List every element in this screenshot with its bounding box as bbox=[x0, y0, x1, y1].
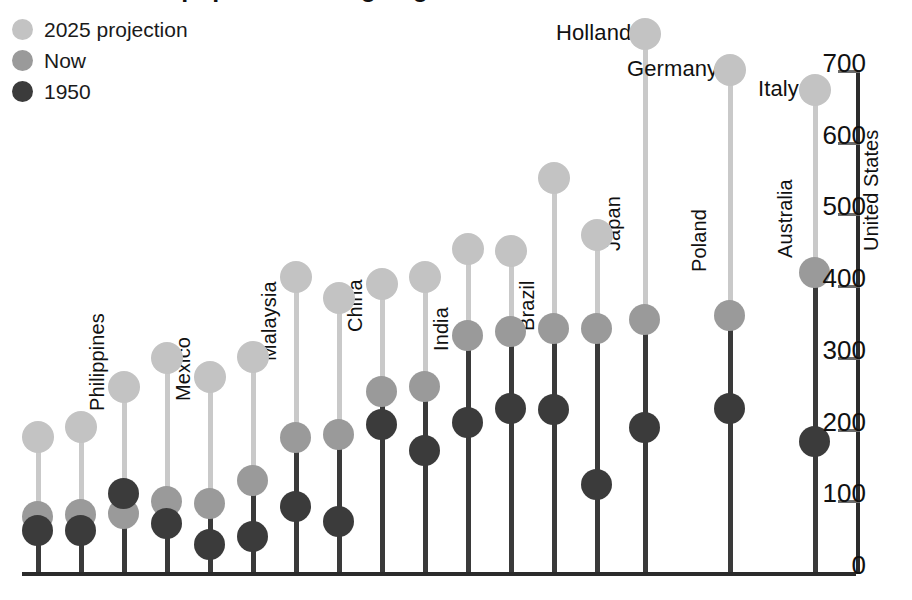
data-point-proj[interactable] bbox=[366, 268, 398, 300]
data-point-old[interactable] bbox=[452, 407, 483, 438]
column-label-philippines: Philippines bbox=[86, 313, 109, 411]
plot-area: PhilippinesMexicoMalaysiaChinaIndiaBrazi… bbox=[0, 0, 912, 600]
data-point-now[interactable] bbox=[323, 419, 354, 450]
data-point-proj[interactable] bbox=[581, 219, 613, 251]
y-tick-label-300: 300 bbox=[823, 337, 866, 363]
y-tick-label-500: 500 bbox=[823, 193, 866, 219]
data-point-proj[interactable] bbox=[714, 54, 746, 86]
y-tick-label-100: 100 bbox=[823, 480, 866, 506]
stem-projection bbox=[165, 358, 170, 501]
data-point-proj[interactable] bbox=[409, 261, 441, 293]
data-point-now[interactable] bbox=[538, 313, 569, 344]
data-point-old[interactable] bbox=[538, 394, 569, 425]
data-point-old[interactable] bbox=[65, 515, 96, 546]
data-point-old[interactable] bbox=[194, 529, 225, 560]
data-point-proj[interactable] bbox=[495, 235, 527, 267]
stem-projection bbox=[294, 277, 299, 438]
data-point-now[interactable] bbox=[495, 316, 526, 347]
chart-canvas: The world's population is ageing fast 20… bbox=[0, 0, 912, 600]
data-point-proj[interactable] bbox=[65, 411, 97, 443]
stem-base bbox=[595, 328, 600, 572]
data-point-proj[interactable] bbox=[538, 162, 570, 194]
stem-projection bbox=[423, 277, 428, 387]
stem-base bbox=[728, 315, 733, 572]
stem-projection bbox=[337, 298, 342, 434]
stem-base bbox=[337, 434, 342, 572]
y-tick-label-400: 400 bbox=[823, 265, 866, 291]
data-point-proj[interactable] bbox=[323, 282, 355, 314]
data-point-proj[interactable] bbox=[237, 341, 269, 373]
y-tick-label-600: 600 bbox=[823, 122, 866, 148]
data-point-old[interactable] bbox=[151, 508, 182, 539]
data-point-old[interactable] bbox=[409, 435, 440, 466]
stem-projection bbox=[251, 357, 256, 480]
data-point-old[interactable] bbox=[237, 521, 268, 552]
y-tick-label-0: 0 bbox=[852, 552, 866, 578]
data-point-now[interactable] bbox=[194, 488, 225, 519]
column-label-holland: Holland bbox=[556, 20, 631, 46]
stem-base bbox=[643, 320, 648, 572]
data-point-now[interactable] bbox=[280, 422, 311, 453]
data-point-now[interactable] bbox=[714, 300, 745, 331]
data-point-old[interactable] bbox=[280, 491, 311, 522]
data-point-proj[interactable] bbox=[629, 18, 661, 50]
column-label-poland: Poland bbox=[688, 209, 711, 272]
data-point-old[interactable] bbox=[366, 409, 397, 440]
data-point-now[interactable] bbox=[366, 376, 397, 407]
stem-projection bbox=[813, 90, 818, 272]
stem-base bbox=[423, 387, 428, 572]
column-label-australia: Australia bbox=[774, 179, 797, 258]
data-point-now[interactable] bbox=[237, 465, 268, 496]
data-point-old[interactable] bbox=[714, 393, 745, 424]
data-point-proj[interactable] bbox=[108, 371, 140, 403]
stem-projection bbox=[728, 70, 733, 315]
column-label-india: India bbox=[430, 307, 453, 351]
data-point-old[interactable] bbox=[581, 469, 612, 500]
data-point-now[interactable] bbox=[629, 304, 660, 335]
stem-base bbox=[813, 272, 818, 572]
data-point-proj[interactable] bbox=[452, 233, 484, 265]
data-point-proj[interactable] bbox=[799, 74, 831, 106]
stem-projection bbox=[208, 377, 213, 503]
data-point-proj[interactable] bbox=[280, 261, 312, 293]
baseline-axis bbox=[22, 572, 856, 576]
stem-base bbox=[509, 332, 514, 572]
data-point-old[interactable] bbox=[108, 478, 139, 509]
data-point-proj[interactable] bbox=[22, 421, 54, 453]
column-label-germany: Germany bbox=[627, 56, 718, 82]
y-tick-label-700: 700 bbox=[823, 50, 866, 76]
data-point-old[interactable] bbox=[629, 412, 660, 443]
data-point-now[interactable] bbox=[452, 320, 483, 351]
stem-projection bbox=[552, 178, 557, 329]
data-point-now[interactable] bbox=[581, 313, 612, 344]
stem-base bbox=[466, 335, 471, 572]
data-point-proj[interactable] bbox=[194, 361, 226, 393]
y-tick-label-200: 200 bbox=[823, 409, 866, 435]
data-point-old[interactable] bbox=[323, 506, 354, 537]
column-label-italy: Italy bbox=[758, 76, 799, 102]
data-point-old[interactable] bbox=[22, 515, 53, 546]
data-point-now[interactable] bbox=[409, 371, 440, 402]
data-point-old[interactable] bbox=[495, 393, 526, 424]
stem-base bbox=[552, 328, 557, 572]
